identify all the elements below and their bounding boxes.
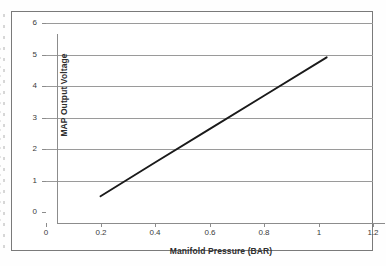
x-tick-mark-1.2 [373, 223, 374, 227]
map-sensor-chart-figure: 0123456 00.20.40.60.811.2 MAP Output Vol… [0, 0, 386, 266]
chart-frame: 0123456 00.20.40.60.811.2 MAP Output Vol… [11, 11, 373, 251]
scan-edge-artifact [3, 14, 5, 250]
y-axis-title: MAP Output Voltage [59, 35, 69, 155]
x-axis-title: Manifold Pressure (BAR) [57, 246, 385, 256]
scan-edge-artifact-secondary [0, 48, 1, 228]
